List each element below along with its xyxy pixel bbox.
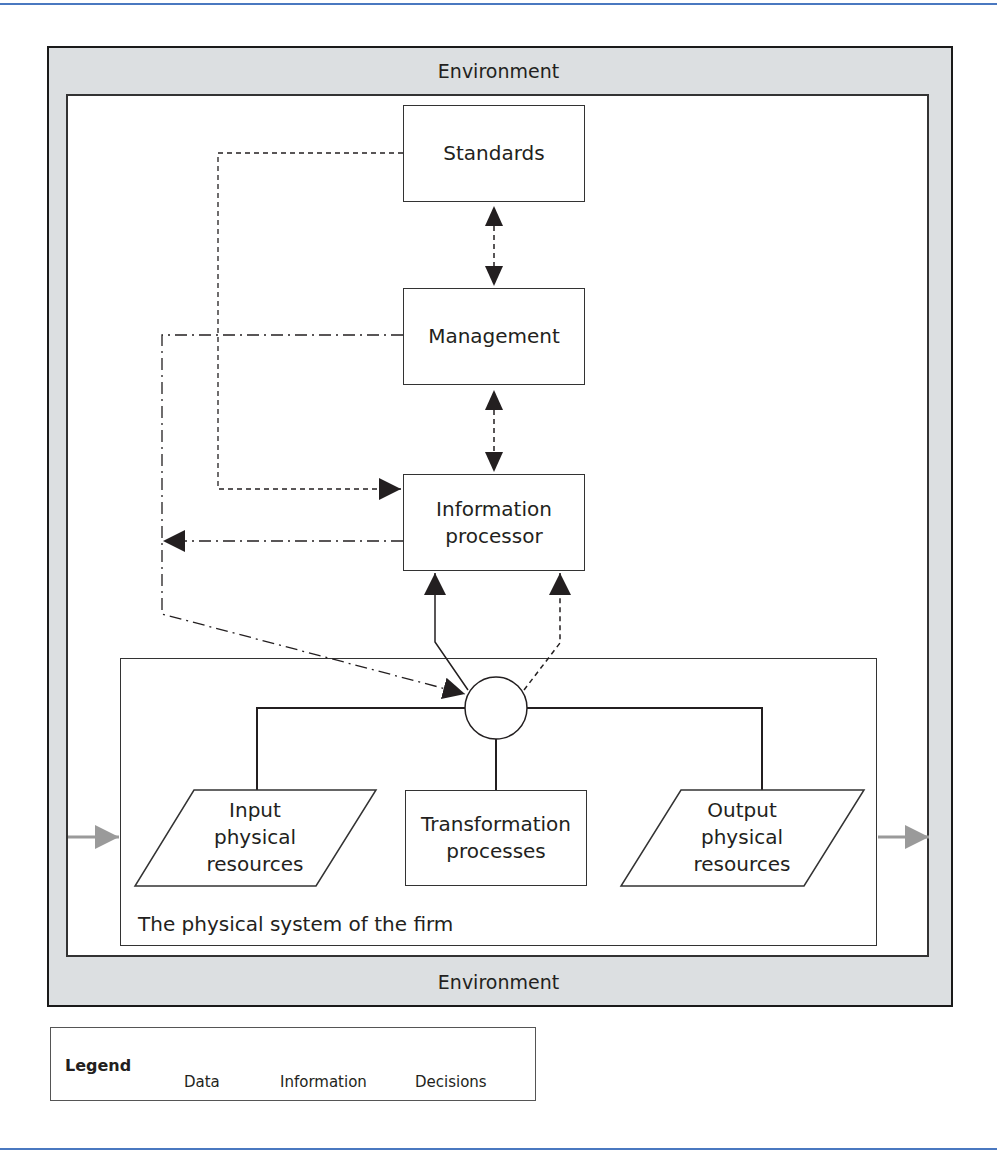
- output-label-3: resources: [662, 851, 822, 878]
- legend-title: Legend: [65, 1056, 131, 1075]
- legend-label-information: Information: [280, 1073, 367, 1091]
- management-infoprocessor-link: [485, 390, 503, 472]
- physical-system-connectors: [257, 677, 762, 790]
- legend-box: Legend Data Information Decisions: [50, 1027, 536, 1101]
- input-physical-resources-label: Input physical resources: [175, 797, 335, 878]
- data-to-infoprocessor-link: [435, 573, 468, 690]
- arrow-down-icon: [485, 452, 503, 472]
- connector-layer: [0, 0, 997, 1151]
- output-label-2: physical: [662, 824, 822, 851]
- arrow-up-icon: [485, 390, 503, 410]
- input-label-3: resources: [175, 851, 335, 878]
- standards-management-link: [485, 206, 503, 286]
- control-node-circle: [465, 677, 527, 739]
- legend-label-decisions: Decisions: [415, 1073, 487, 1091]
- output-label-1: Output: [662, 797, 822, 824]
- management-to-physical-system-link: [162, 335, 465, 694]
- input-label-1: Input: [175, 797, 335, 824]
- legend-label-data: Data: [184, 1073, 220, 1091]
- arrow-down-icon: [485, 266, 503, 286]
- bottom-rule: [0, 1148, 997, 1150]
- arrow-up-icon: [485, 206, 503, 226]
- standards-to-infoprocessor-link: [218, 153, 403, 489]
- input-label-2: physical: [175, 824, 335, 851]
- output-physical-resources-label: Output physical resources: [662, 797, 822, 878]
- information-to-infoprocessor-link: [524, 573, 560, 690]
